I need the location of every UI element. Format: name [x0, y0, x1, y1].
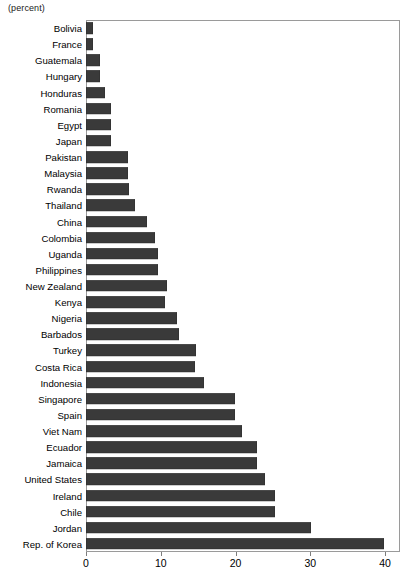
bar — [86, 232, 155, 244]
bar — [86, 151, 128, 163]
bar-row: Spain — [0, 407, 418, 423]
category-label: Ecuador — [46, 442, 82, 453]
category-label: Thailand — [45, 200, 82, 211]
bar — [86, 377, 204, 389]
bar — [86, 458, 257, 470]
bar — [86, 506, 275, 518]
bar-track — [86, 280, 400, 292]
bar-row: Honduras — [0, 84, 418, 100]
category-label: France — [52, 39, 82, 50]
bar-row: Turkey — [0, 342, 418, 358]
category-label: Ireland — [53, 490, 82, 501]
bar-row: Indonesia — [0, 375, 418, 391]
bar-track — [86, 103, 400, 115]
bar-track — [86, 361, 400, 373]
bar-row: Singapore — [0, 391, 418, 407]
bar-track — [86, 119, 400, 131]
category-label: Jamaica — [46, 458, 82, 469]
bar-track — [86, 393, 400, 405]
bar-row: Hungary — [0, 68, 418, 84]
bar — [86, 312, 177, 324]
category-label: Indonesia — [40, 377, 82, 388]
bar-row: Colombia — [0, 230, 418, 246]
axis-tick-label: 0 — [83, 557, 89, 569]
axis-tick — [86, 552, 87, 556]
bar-row: China — [0, 213, 418, 229]
bar-track — [86, 216, 400, 228]
bar-track — [86, 441, 400, 453]
category-label: Honduras — [40, 87, 82, 98]
bar-track — [86, 522, 400, 534]
bar-row: Malaysia — [0, 165, 418, 181]
category-label: Singapore — [38, 393, 82, 404]
category-label: Uganda — [48, 248, 82, 259]
bar-track — [86, 87, 400, 99]
category-label: Kenya — [55, 297, 82, 308]
bar-track — [86, 474, 400, 486]
bar-track — [86, 248, 400, 260]
axis-tick-label: 10 — [155, 557, 167, 569]
bar — [86, 119, 111, 131]
category-label: Pakistan — [45, 152, 82, 163]
bar — [86, 167, 128, 179]
bar-row: Chile — [0, 504, 418, 520]
category-label: Malaysia — [44, 168, 82, 179]
bar-track — [86, 377, 400, 389]
bar-row: Egypt — [0, 117, 418, 133]
bar-track — [86, 506, 400, 518]
bar-row: Jamaica — [0, 455, 418, 471]
bar-track — [86, 490, 400, 502]
bar — [86, 38, 93, 50]
bar-track — [86, 184, 400, 196]
bar-row: Rep. of Korea — [0, 536, 418, 552]
bar — [86, 296, 165, 308]
bar — [86, 522, 311, 534]
bar-track — [86, 71, 400, 83]
bar-row: Jordan — [0, 520, 418, 536]
category-label: Colombia — [41, 232, 82, 243]
bar-track — [86, 409, 400, 421]
category-label: Romania — [44, 103, 82, 114]
bar — [86, 425, 242, 437]
bar-track — [86, 538, 400, 550]
bar-row: Nigeria — [0, 310, 418, 326]
bar-row: Romania — [0, 101, 418, 117]
category-label: Barbados — [41, 329, 82, 340]
bar-track — [86, 135, 400, 147]
axis-tick — [161, 552, 162, 556]
bar-row: Bolivia — [0, 20, 418, 36]
category-label: Spain — [57, 409, 82, 420]
category-label: Rep. of Korea — [23, 538, 82, 549]
bar — [86, 393, 235, 405]
bar — [86, 361, 195, 373]
category-label: Nigeria — [52, 313, 82, 324]
bar-row: Pakistan — [0, 149, 418, 165]
bar — [86, 87, 105, 99]
category-label: Chile — [60, 506, 82, 517]
bar — [86, 184, 129, 196]
axis-tick-label: 30 — [304, 557, 316, 569]
bar-row: Viet Nam — [0, 423, 418, 439]
bar-track — [86, 22, 400, 34]
category-label: Japan — [56, 135, 82, 146]
bar — [86, 329, 179, 341]
bar-row: Uganda — [0, 246, 418, 262]
category-label: Hungary — [46, 71, 82, 82]
category-label: Bolivia — [54, 23, 82, 34]
category-label: Egypt — [57, 119, 82, 130]
category-label: Rwanda — [47, 184, 82, 195]
category-label: Philippines — [36, 264, 82, 275]
category-label: China — [57, 216, 82, 227]
bar — [86, 22, 93, 34]
category-label: United States — [24, 474, 82, 485]
category-label: Jordan — [53, 522, 82, 533]
bar-track — [86, 55, 400, 67]
bar-track — [86, 264, 400, 276]
bar-row: Ireland — [0, 488, 418, 504]
bar — [86, 280, 167, 292]
bar — [86, 200, 135, 212]
bar — [86, 538, 384, 550]
axis-tick — [385, 552, 386, 556]
bar-row: New Zealand — [0, 278, 418, 294]
bar-track — [86, 458, 400, 470]
